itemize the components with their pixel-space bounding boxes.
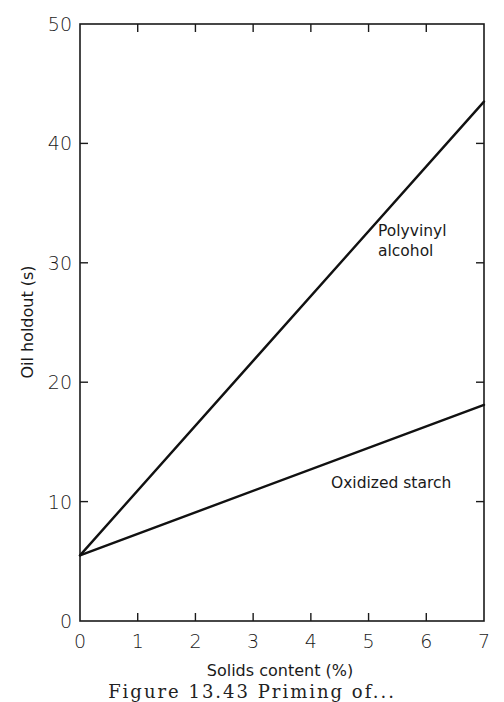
- x-tick-label: 2: [189, 630, 201, 652]
- y-tick-label: 20: [48, 371, 72, 393]
- y-tick-label: 40: [48, 132, 72, 154]
- x-tick-label: 3: [247, 630, 259, 652]
- x-tick-labels: 01234567: [74, 630, 490, 652]
- y-tick-labels: 01020304050: [48, 13, 72, 632]
- x-axis-title: Solids content (%): [207, 661, 353, 680]
- x-tick-label: 6: [420, 630, 432, 652]
- x-tick-label: 7: [478, 630, 490, 652]
- plot-frame: [80, 24, 484, 621]
- y-tick-label: 0: [60, 610, 72, 632]
- series-labels: PolyvinylalcoholOxidized starch: [331, 222, 451, 492]
- axis-ticks: [80, 24, 484, 621]
- y-tick-label: 50: [48, 13, 72, 35]
- x-tick-label: 4: [305, 630, 317, 652]
- y-axis-title: Oil holdout (s): [18, 265, 37, 378]
- series-label: Polyvinyl: [378, 222, 447, 240]
- y-tick-label: 10: [48, 491, 72, 513]
- plot-border: [80, 24, 484, 621]
- x-tick-label: 0: [74, 630, 86, 652]
- series-label: Oxidized starch: [331, 474, 451, 492]
- x-tick-label: 1: [132, 630, 144, 652]
- figure-caption: Figure 13.43 Priming of...: [0, 681, 504, 702]
- y-tick-label: 30: [48, 252, 72, 274]
- x-tick-label: 5: [363, 630, 375, 652]
- series-label: alcohol: [378, 242, 433, 260]
